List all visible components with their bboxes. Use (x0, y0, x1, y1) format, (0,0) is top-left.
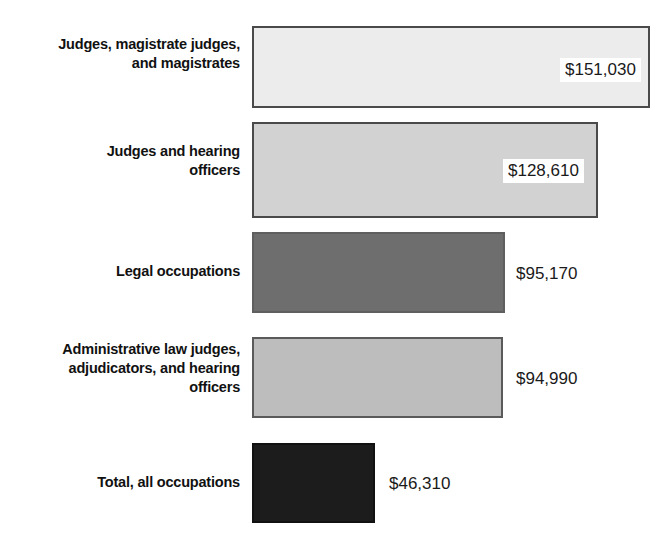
category-label-line: Total, all occupations (0, 473, 240, 492)
bar-value-label: $94,990 (508, 367, 582, 391)
category-label-line: Administrative law judges, (0, 340, 240, 359)
bar-chart: Judges, magistrate judges,and magistrate… (0, 0, 661, 551)
bar-value-label: $46,310 (381, 472, 455, 496)
category-label: Administrative law judges,adjudicators, … (0, 340, 240, 397)
category-label-line: Judges, magistrate judges, (0, 35, 240, 54)
category-label-line: Legal occupations (0, 262, 240, 281)
category-label: Legal occupations (0, 262, 240, 281)
bar (252, 232, 505, 313)
category-label-line: officers (0, 378, 240, 397)
bar (252, 443, 375, 523)
category-label: Total, all occupations (0, 473, 240, 492)
category-label-line: and magistrates (0, 54, 240, 73)
bar-value-label: $95,170 (508, 262, 582, 286)
category-label: Judges and hearingofficers (0, 142, 240, 180)
bar-value-label: $151,030 (560, 58, 641, 82)
category-label-line: Judges and hearing (0, 142, 240, 161)
category-label: Judges, magistrate judges,and magistrate… (0, 35, 240, 73)
category-label-line: adjudicators, and hearing (0, 359, 240, 378)
bar (252, 337, 503, 418)
bar-value-label: $128,610 (503, 159, 584, 183)
category-label-line: officers (0, 161, 240, 180)
